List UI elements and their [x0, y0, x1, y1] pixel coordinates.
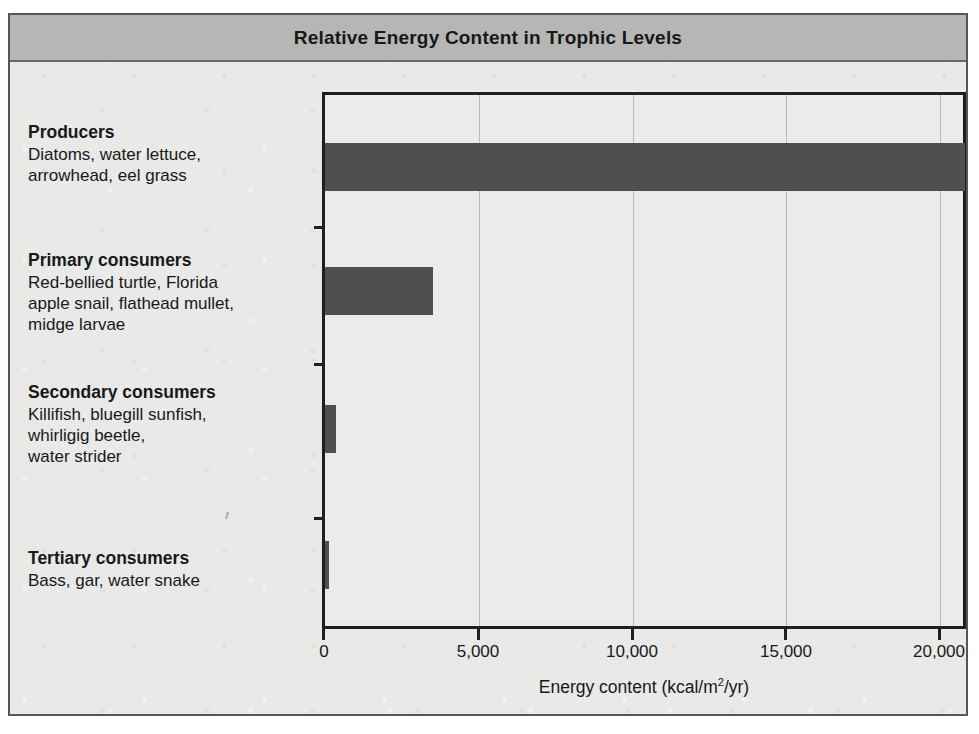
- x-axis-title-after: /yr): [724, 677, 749, 697]
- chart-figure: Relative Energy Content in Trophic Level…: [8, 13, 968, 716]
- y-axis-tick: [314, 363, 325, 366]
- paper-speck: [225, 512, 229, 519]
- plot-area: [322, 92, 966, 629]
- category-members-line: Diatoms, water lettuce,: [28, 144, 308, 165]
- y-axis-tick: [314, 517, 325, 520]
- category-members-line: Red-bellied turtle, Florida: [28, 272, 308, 293]
- category-label-primary-consumers: Primary consumers Red-bellied turtle, Fl…: [28, 250, 308, 335]
- x-axis-label-20000: 20,000: [913, 642, 965, 662]
- bar-tertiary-consumers: [325, 541, 329, 589]
- chart-title-bar: Relative Energy Content in Trophic Level…: [10, 15, 966, 62]
- category-label-producers: Producers Diatoms, water lettuce, arrowh…: [28, 122, 308, 186]
- bar-primary-consumers: [325, 267, 433, 315]
- x-axis-tick-10000: [631, 629, 634, 640]
- category-title: Tertiary consumers: [28, 548, 308, 569]
- category-label-column: Producers Diatoms, water lettuce, arrowh…: [10, 64, 310, 714]
- category-members-line: arrowhead, eel grass: [28, 165, 308, 186]
- category-label-secondary-consumers: Secondary consumers Killifish, bluegill …: [28, 382, 308, 467]
- bar-secondary-consumers: [325, 405, 336, 453]
- x-axis-tick-5000: [477, 629, 480, 640]
- category-members-line: midge larvae: [28, 314, 308, 335]
- category-title: Secondary consumers: [28, 382, 308, 403]
- x-axis-title-before: Energy content (kcal/m: [539, 677, 718, 697]
- x-axis-label-0: 0: [319, 642, 328, 662]
- x-axis-tick-0: [322, 629, 325, 640]
- chart-title: Relative Energy Content in Trophic Level…: [294, 27, 682, 49]
- x-axis-label-15000: 15,000: [760, 642, 812, 662]
- x-axis-title: Energy content (kcal/m2/yr): [322, 676, 966, 698]
- category-members-line: apple snail, flathead mullet,: [28, 293, 308, 314]
- x-axis-label-10000: 10,000: [606, 642, 658, 662]
- x-axis-label-5000: 5,000: [457, 642, 500, 662]
- category-title: Primary consumers: [28, 250, 308, 271]
- category-title: Producers: [28, 122, 308, 143]
- x-axis-tick-20000: [938, 629, 941, 640]
- chart-body: Producers Diatoms, water lettuce, arrowh…: [10, 64, 966, 714]
- bar-producers: [325, 143, 965, 191]
- category-members-line: whirligig beetle,: [28, 425, 308, 446]
- category-members-line: Killifish, bluegill sunfish,: [28, 404, 308, 425]
- category-members-line: Bass, gar, water snake: [28, 570, 308, 591]
- x-axis-tick-15000: [784, 629, 787, 640]
- y-axis-tick: [314, 226, 325, 229]
- category-members-line: water strider: [28, 446, 308, 467]
- category-label-tertiary-consumers: Tertiary consumers Bass, gar, water snak…: [28, 548, 308, 591]
